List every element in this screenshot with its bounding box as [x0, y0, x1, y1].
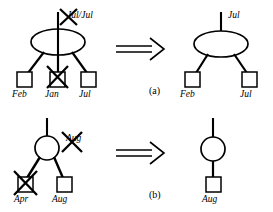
panel-b: Aug Apr Aug Aug (b) [0, 106, 273, 212]
left-tree-a-edge-jul [72, 52, 87, 73]
left-tree-b-root-label: Aug [66, 134, 81, 144]
right-tree-a-leaf-box-jul [242, 72, 257, 87]
right-tree-a-root-label: Jul [228, 11, 240, 21]
right-tree-b-leaf-box-aug [206, 177, 221, 192]
left-tree-b-leaf-label-apr: Apr [14, 195, 28, 205]
left-tree-a-leaf-box-jan [50, 72, 65, 87]
left-tree-b-leaf-label-aug: Aug [52, 195, 67, 205]
left-tree-a-leaf-box-feb [17, 72, 32, 87]
left-tree-b-leaf-box-aug [57, 177, 72, 192]
transform-arrow-b [116, 142, 164, 164]
right-tree-a-leaf-label-feb: Feb [180, 90, 195, 100]
right-tree-a-leaf-box-feb [185, 72, 200, 87]
panel-a-caption: (a) [149, 86, 160, 96]
left-tree-a-root-label: Jul/Jul [67, 11, 93, 21]
right-tree-a-edge-feb [196, 54, 208, 73]
right-tree-b-leaf-label-aug: Aug [202, 195, 217, 205]
panel-b-graphics [0, 106, 273, 212]
left-tree-a-leaf-label-jul: Jul [79, 90, 91, 100]
left-tree-a-leaf-label-jan: Jan [45, 90, 59, 100]
left-tree-b-circle-node [35, 136, 59, 160]
right-tree-a-edge-jul [234, 54, 247, 73]
left-tree-a-edge-feb [28, 52, 44, 73]
right-tree-a-leaf-label-jul: Jul [240, 90, 252, 100]
left-tree-a-leaf-box-jul [81, 72, 96, 87]
left-tree-b-edge-aug [54, 157, 63, 178]
right-tree-b-circle-node [201, 137, 225, 161]
panel-a: Jul/Jul Feb Jan Jul Jul Feb Jul (a) [0, 0, 273, 106]
left-tree-a-leaf-label-feb: Feb [12, 90, 27, 100]
figure-root: Jul/Jul Feb Jan Jul Jul Feb Jul (a) [0, 0, 273, 212]
panel-b-caption: (b) [149, 190, 161, 200]
right-tree-a-ellipse-node [194, 31, 248, 57]
transform-arrow-a [116, 38, 164, 60]
